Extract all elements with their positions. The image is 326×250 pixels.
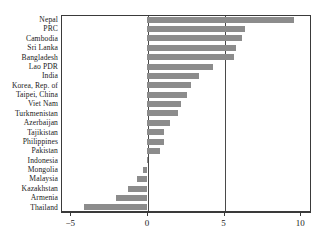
y-axis-label: Lao PDR [0,62,58,71]
x-axis-line [61,212,311,213]
bar-row [61,174,311,183]
y-axis-label: Tajikistan [0,128,58,137]
x-axis-tick-label: 10 [285,218,315,228]
bar-row [61,109,311,118]
bar [128,186,146,192]
bars-layer [61,15,311,212]
bar-row [61,15,311,24]
bar-row [61,90,311,99]
bar [147,64,213,70]
bar-row [61,184,311,193]
bar [147,17,294,23]
bar-row [61,43,311,52]
bar [147,101,181,107]
bar [147,129,164,135]
x-axis-tick-label: 5 [209,218,239,228]
y-axis-label: Kazakhstan [0,184,58,193]
bar-row [61,118,311,127]
bar-row [61,156,311,165]
bar-row [61,34,311,43]
bar [147,157,148,163]
bar-row [61,165,311,174]
y-axis-label: Philippines [0,137,58,146]
y-axis-label: Azerbaijan [0,118,58,127]
x-axis-tick-label: 0 [132,218,162,228]
x-axis-tick [300,212,301,216]
bar [147,92,187,98]
y-axis-label: Taipei, China [0,90,58,99]
bar-row [61,193,311,202]
bar-row [61,203,311,212]
y-axis-label: Cambodia [0,34,58,43]
bar-row [61,71,311,80]
bar-row [61,146,311,155]
y-axis-label: Indonesia [0,156,58,165]
bar-row [61,24,311,33]
bar-row [61,81,311,90]
bar-row [61,62,311,71]
bar-row [61,137,311,146]
bar [147,35,242,41]
y-axis-label: Korea, Rep. of [0,81,58,90]
y-axis-label: Sri Lanka [0,43,58,52]
x-axis-tick [147,212,148,216]
bar [147,82,191,88]
bar [147,45,236,51]
bar [147,148,160,154]
y-axis-label: Nepal [0,15,58,24]
bar [147,73,199,79]
bar-row [61,53,311,62]
bar-row [61,128,311,137]
y-axis-label: Pakistan [0,146,58,155]
y-axis-label: Mongolia [0,165,58,174]
bar [147,54,234,60]
bar [147,26,245,32]
y-axis-label: Turkmenistan [0,109,58,118]
y-axis-label: Malaysia [0,174,58,183]
bar [143,167,147,173]
y-axis-labels: NepalPRCCambodiaSri LankaBangladeshLao P… [0,15,58,212]
y-axis-label: PRC [0,24,58,33]
y-axis-label: Armenia [0,193,58,202]
x-axis-tick [224,212,225,216]
bar [116,195,147,201]
x-axis-tick [70,212,71,216]
y-axis-label: Viet Nam [0,99,58,108]
y-axis-label: India [0,71,58,80]
bar-chart: NepalPRCCambodiaSri LankaBangladeshLao P… [0,0,326,250]
x-axis-tick-label: −5 [55,218,85,228]
bar [84,204,147,210]
y-axis-label: Thailand [0,203,58,212]
bar [147,139,164,145]
bar [147,110,178,116]
bar [137,176,147,182]
bar-row [61,99,311,108]
bar [147,120,170,126]
y-axis-label: Bangladesh [0,53,58,62]
